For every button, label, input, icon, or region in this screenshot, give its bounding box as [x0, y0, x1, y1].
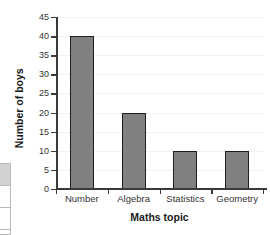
bar: [173, 151, 197, 189]
y-axis-line: [56, 17, 58, 189]
y-tick-mark: [51, 17, 56, 18]
bar-chart: 051015202530354045 NumberAlgebraStatisti…: [0, 0, 270, 235]
x-tick-mark: [263, 189, 264, 194]
x-tick-mark: [160, 189, 161, 194]
bar: [122, 113, 146, 189]
y-tick-mark: [51, 93, 56, 94]
bar: [70, 36, 94, 189]
x-category-label: Geometry: [216, 194, 258, 204]
bar: [225, 151, 249, 189]
y-tick-label: 0: [0, 185, 49, 194]
y-tick-mark: [51, 36, 56, 37]
y-tick-label: 45: [0, 13, 49, 22]
y-tick-mark: [51, 113, 56, 114]
y-tick-mark: [51, 55, 56, 56]
x-tick-mark: [108, 189, 109, 194]
x-category-label: Statistics: [166, 194, 204, 204]
x-category-label: Algebra: [117, 194, 150, 204]
y-tick-mark: [51, 170, 56, 171]
y-tick-mark: [51, 151, 56, 152]
x-tick-mark: [211, 189, 212, 194]
y-tick-label: 5: [0, 165, 49, 174]
gridline: [56, 17, 263, 18]
x-category-label: Number: [65, 194, 99, 204]
x-axis-line: [56, 188, 267, 190]
y-tick-mark: [51, 74, 56, 75]
x-axis-title: Maths topic: [56, 212, 263, 223]
y-tick-mark: [51, 132, 56, 133]
x-tick-mark: [56, 189, 57, 194]
y-axis-title: Number of boys: [14, 48, 25, 168]
y-tick-label: 35: [0, 51, 49, 60]
y-tick-label: 40: [0, 32, 49, 41]
plot-area: [56, 17, 263, 189]
